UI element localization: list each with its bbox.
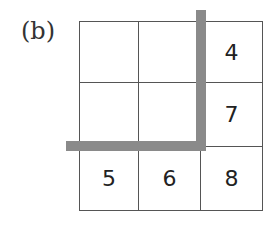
grid-cell-r3c2: 6	[139, 147, 201, 211]
grid-cell-r2c3: 7	[201, 83, 263, 147]
grid-cell-r2c2	[139, 83, 201, 147]
grid-cell-r3c1: 5	[80, 147, 139, 211]
grid-cell-r1c1	[80, 22, 139, 83]
vertical-divider-bar	[196, 10, 206, 151]
horizontal-divider-bar	[66, 141, 206, 151]
number-grid: 4 7 5 6 8	[79, 21, 263, 211]
grid-cell-r2c1	[80, 83, 139, 147]
grid-cell-r1c3: 4	[201, 22, 263, 83]
figure-label: (b)	[21, 17, 55, 45]
grid-cell-r3c3: 8	[201, 147, 263, 211]
grid-cell-r1c2	[139, 22, 201, 83]
